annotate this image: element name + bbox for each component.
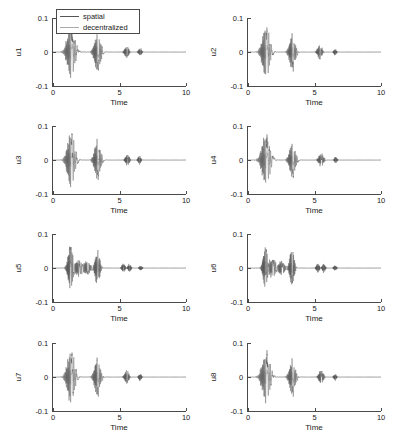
plot-area: 05100.10-0.1Time — [247, 234, 381, 302]
x-tick — [381, 83, 382, 86]
x-axis-label: Time — [110, 206, 127, 215]
x-axis-label: Time — [305, 423, 322, 432]
subplot-u4: u405100.10-0.1Time — [195, 108, 391, 217]
x-axis-line — [52, 302, 186, 303]
y-tick-label: 0.1 — [233, 122, 243, 131]
series-spatial — [53, 353, 186, 403]
plot-area: 05100.10-0.1Time — [52, 234, 186, 302]
series-spatial — [248, 247, 381, 286]
y-tick — [53, 86, 56, 87]
subplot-u7: u705100.10-0.1Time — [0, 325, 196, 434]
y-tick-label: -0.1 — [35, 190, 48, 199]
y-tick — [248, 411, 251, 412]
x-tick — [381, 299, 382, 302]
x-tick-label: 5 — [117, 88, 121, 97]
x-tick-label: 10 — [182, 196, 190, 205]
subplot-u8: u805100.10-0.1Time — [195, 325, 391, 434]
x-axis-line — [247, 302, 381, 303]
x-axis-label: Time — [305, 314, 322, 323]
signal-traces — [53, 234, 186, 302]
x-axis-label: Time — [305, 206, 322, 215]
x-tick-label: 0 — [51, 196, 55, 205]
y-tick — [248, 86, 251, 87]
signal-traces — [53, 343, 186, 411]
signal-traces — [248, 18, 381, 86]
y-axis-label: u2 — [209, 48, 218, 57]
x-tick-label: 5 — [312, 88, 316, 97]
x-tick-label: 10 — [377, 196, 385, 205]
y-tick-label: -0.1 — [35, 298, 48, 307]
y-tick-label: -0.1 — [35, 82, 48, 91]
x-tick — [186, 299, 187, 302]
figure-multi-panel-signals: u105100.10-0.1Timespatialdecentralizedu2… — [0, 0, 393, 436]
plot-area: 05100.10-0.1Time — [247, 18, 381, 86]
x-axis-line — [52, 194, 186, 195]
x-axis-line — [247, 86, 381, 87]
y-axis-label: u8 — [209, 373, 218, 382]
y-tick-label: 0.1 — [38, 339, 48, 348]
series-spatial — [53, 247, 186, 288]
plot-area: 05100.10-0.1Time — [52, 126, 186, 194]
y-axis-label: u4 — [209, 156, 218, 165]
legend-label: spatial — [83, 13, 105, 21]
x-tick — [381, 191, 382, 194]
y-axis-label: u3 — [14, 156, 23, 165]
legend-item-decentralized: decentralized — [60, 22, 128, 33]
y-axis-label: u5 — [14, 264, 23, 273]
x-tick-label: 10 — [182, 304, 190, 313]
y-tick — [248, 302, 251, 303]
y-tick — [53, 302, 56, 303]
y-tick-label: 0 — [239, 264, 243, 273]
x-tick — [381, 408, 382, 411]
x-tick — [186, 83, 187, 86]
y-tick-label: -0.1 — [230, 82, 243, 91]
y-tick-label: -0.1 — [230, 298, 243, 307]
x-tick-label: 5 — [312, 413, 316, 422]
x-tick — [186, 408, 187, 411]
series-spatial — [248, 350, 381, 403]
x-tick-label: 10 — [377, 413, 385, 422]
plot-area: 05100.10-0.1Time — [52, 343, 186, 411]
subplot-u2: u205100.10-0.1Time — [195, 0, 391, 109]
x-tick-label: 0 — [246, 196, 250, 205]
y-tick-label: 0.1 — [38, 122, 48, 131]
x-tick-label: 5 — [117, 196, 121, 205]
x-tick-label: 5 — [312, 304, 316, 313]
plot-area: 05100.10-0.1Time — [247, 126, 381, 194]
y-tick-label: -0.1 — [230, 407, 243, 416]
x-tick-label: 10 — [377, 304, 385, 313]
x-axis-line — [52, 411, 186, 412]
x-axis-label: Time — [110, 314, 127, 323]
y-axis-label: u7 — [14, 373, 23, 382]
x-tick-label: 5 — [312, 196, 316, 205]
x-tick-label: 10 — [182, 413, 190, 422]
x-tick-label: 5 — [117, 304, 121, 313]
y-tick-label: 0.1 — [233, 14, 243, 23]
legend-item-spatial: spatial — [60, 11, 105, 22]
x-axis-label: Time — [110, 423, 127, 432]
y-axis-label: u6 — [209, 264, 218, 273]
x-tick — [186, 191, 187, 194]
signal-traces — [248, 234, 381, 302]
subplot-u1: u105100.10-0.1Timespatialdecentralized — [0, 0, 196, 109]
x-axis-line — [52, 86, 186, 87]
x-axis-label: Time — [110, 98, 127, 107]
series-spatial — [248, 27, 381, 74]
y-tick-label: 0.1 — [38, 230, 48, 239]
series-spatial — [53, 133, 186, 187]
x-tick-label: 5 — [117, 413, 121, 422]
y-tick-label: 0 — [239, 48, 243, 57]
y-tick-label: 0 — [239, 373, 243, 382]
y-tick — [53, 411, 56, 412]
x-axis-label: Time — [305, 98, 322, 107]
y-tick-label: 0.1 — [233, 230, 243, 239]
y-tick-label: -0.1 — [230, 190, 243, 199]
legend-line-swatch — [60, 27, 79, 28]
signal-traces — [248, 126, 381, 194]
y-tick — [248, 194, 251, 195]
x-axis-line — [247, 194, 381, 195]
x-tick-label: 0 — [246, 88, 250, 97]
y-tick-label: 0 — [44, 264, 48, 273]
x-tick-label: 10 — [377, 88, 385, 97]
subplot-u3: u305100.10-0.1Time — [0, 108, 196, 217]
